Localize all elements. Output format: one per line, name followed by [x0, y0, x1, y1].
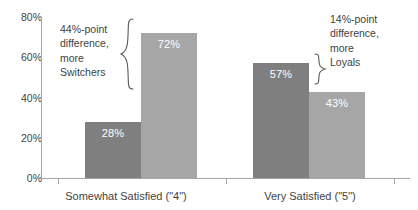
bar-group1-series1: 43% [309, 92, 365, 179]
right-annotation-text: 14%-point difference, more Loyals [330, 12, 400, 70]
bar-group0-series1: 72% [141, 33, 197, 178]
bar-chart: 0% 20% 40% 60% 80% 28% 72% 57% 43% [0, 0, 418, 210]
bar-group0-series0: 28% [85, 122, 141, 178]
x-axis-tick-mark-start [58, 178, 59, 184]
x-axis-category-label-1: Very Satisfied ("5") [226, 190, 394, 202]
bar-value-label: 57% [253, 68, 309, 80]
bar-group1-series0: 57% [253, 63, 309, 178]
x-axis-tick-mark-end [394, 178, 395, 184]
x-axis-tick-mark-mid [226, 178, 227, 184]
x-axis-category-label-0: Somewhat Satisfied ("4") [42, 190, 210, 202]
left-annotation-text: 44%-point difference, more Switchers [60, 22, 122, 80]
bar-value-label: 43% [309, 97, 365, 109]
bar-value-label: 28% [85, 127, 141, 139]
bar-value-label: 72% [141, 38, 197, 50]
